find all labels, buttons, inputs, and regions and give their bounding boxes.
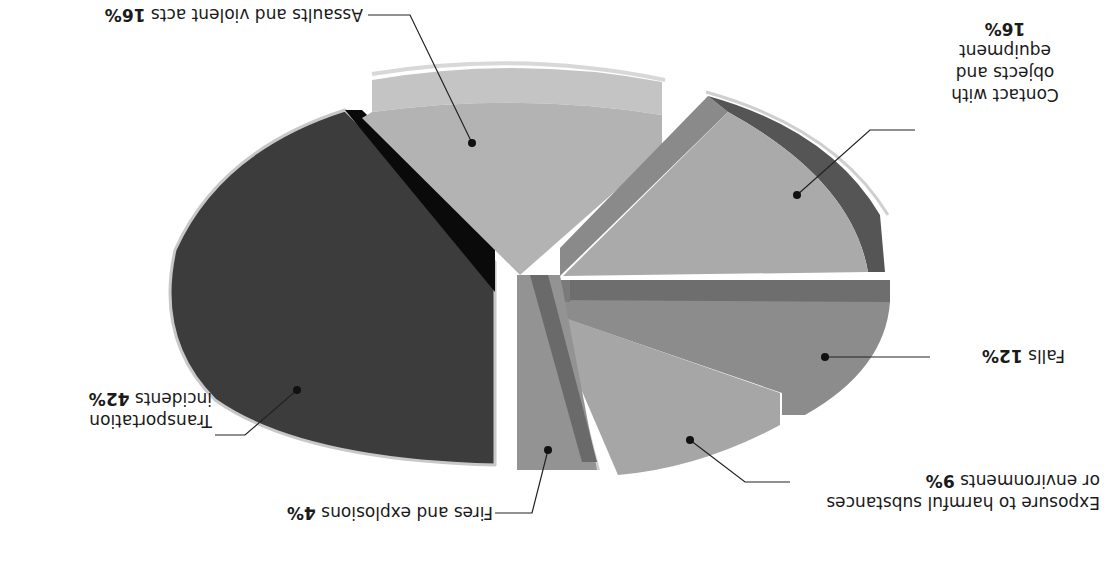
label-fires-text: Fires and explosions [321, 503, 493, 523]
label-exposure-pct: 9% [926, 471, 955, 491]
label-contact-line1: Contact with [915, 84, 1095, 106]
label-falls: Falls 12% [935, 345, 1065, 367]
label-contact: Contact with objects and equipment 16% [915, 18, 1095, 106]
label-assaults-text: Assaults and violent acts [151, 5, 363, 25]
label-fires: Fires and explosions 4% [203, 502, 493, 524]
label-contact-pct: 16% [915, 18, 1095, 40]
label-contact-line2: objects and [915, 62, 1095, 84]
label-transportation-line1: Transportation [62, 410, 212, 432]
label-exposure: Exposure to harmful substances or enviro… [795, 470, 1100, 514]
label-exposure-line1: Exposure to harmful substances [795, 492, 1100, 514]
label-falls-text: Falls [1028, 346, 1065, 366]
label-fires-pct: 4% [287, 503, 316, 523]
label-transportation-pct: 42% [89, 389, 130, 409]
label-assaults: Assaults and violent acts 16% [28, 4, 363, 26]
chart-stage: Assaults and violent acts 16% Contact wi… [0, 0, 1115, 565]
label-transportation: Transportation incidents 42% [62, 388, 212, 432]
label-falls-pct: 12% [982, 346, 1023, 366]
label-contact-line3: equipment [915, 40, 1095, 62]
label-exposure-line2: or environments [960, 471, 1100, 491]
label-transportation-line2: incidents [135, 389, 212, 409]
label-assaults-pct: 16% [105, 5, 146, 25]
